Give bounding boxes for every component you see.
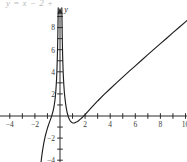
curve-group — [41, 8, 187, 162]
x-tick-label: 2 — [83, 120, 87, 129]
y-tick-label: −4 — [47, 156, 55, 162]
y-tick-label: 6 — [51, 46, 55, 55]
axes-group — [0, 8, 187, 162]
y-tick-label: 8 — [51, 23, 55, 32]
x-tick-label: 10 — [182, 120, 187, 129]
y-tick-label: 4 — [51, 68, 55, 77]
curve-right-branch — [62, 8, 187, 123]
x-tick-label: 6 — [133, 120, 137, 129]
y-axis-name-label: y — [63, 5, 68, 14]
function-graph-figure: y = x − 2 + −4−22468108642−2−4xy — [0, 0, 187, 162]
x-tick-label: 4 — [108, 120, 112, 129]
y-tick-label: −2 — [47, 134, 55, 143]
tick-labels-group: −4−22468108642−2−4xy — [6, 5, 187, 162]
x-tick-label: −4 — [6, 120, 14, 129]
x-tick-label: −2 — [31, 120, 39, 129]
plot-canvas: −4−22468108642−2−4xy — [0, 0, 187, 162]
y-tick-label: 2 — [51, 90, 55, 99]
x-tick-label: 8 — [159, 120, 163, 129]
ticks-group — [10, 17, 187, 161]
